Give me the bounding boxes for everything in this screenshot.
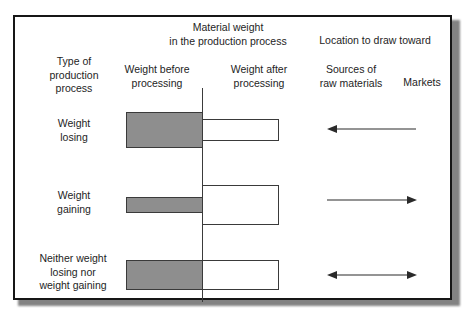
column-header-weight-before-processing: Weight before processing bbox=[103, 63, 211, 90]
bar-weight-before-neither bbox=[126, 260, 203, 290]
group-header-location: Location to draw toward bbox=[295, 34, 455, 48]
column-header-sources-of-raw-materials: Sources of raw materials bbox=[295, 63, 407, 90]
figure-root: Material weight in the production proces… bbox=[0, 0, 467, 332]
bar-weight-after-weight-losing bbox=[202, 119, 279, 141]
diagram-frame: Material weight in the production proces… bbox=[13, 15, 452, 300]
bar-weight-after-weight-gaining bbox=[202, 185, 279, 225]
column-header-markets: Markets bbox=[393, 76, 451, 90]
arrow-bidirectional-neither bbox=[327, 268, 417, 282]
arrow-left-weight-losing bbox=[327, 122, 417, 136]
row-label-weight-losing: Weight losing bbox=[21, 117, 127, 144]
arrow-right-weight-gaining bbox=[327, 193, 417, 207]
bar-weight-after-neither bbox=[202, 260, 279, 290]
bar-weight-before-weight-losing bbox=[126, 112, 203, 148]
row-label-weight-gaining: Weight gaining bbox=[21, 189, 127, 216]
bar-weight-before-weight-gaining bbox=[126, 197, 203, 213]
row-label-neither-losing-nor-gaining: Neither weight losing nor weight gaining bbox=[16, 252, 130, 293]
